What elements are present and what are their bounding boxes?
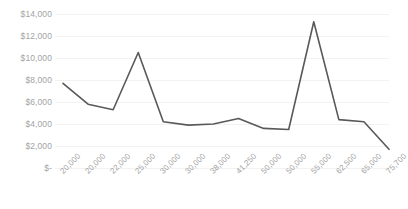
x-axis: 20,00020,00022,00025,00030,00030,00038,0… bbox=[0, 168, 394, 209]
y-axis-tick-label: $4,000 bbox=[25, 120, 52, 129]
y-axis-tick-label: $12,000 bbox=[21, 32, 52, 41]
series-line-1 bbox=[63, 22, 389, 150]
series-line-svg bbox=[55, 14, 389, 168]
y-axis-tick-label: $14,000 bbox=[21, 10, 52, 19]
y-axis-tick-label: $10,000 bbox=[21, 54, 52, 63]
y-axis-tick-label: $8,000 bbox=[25, 76, 52, 85]
y-axis-tick-label: $6,000 bbox=[25, 98, 52, 107]
y-axis-tick-label: $2,000 bbox=[25, 142, 52, 151]
plot-area bbox=[55, 14, 389, 168]
